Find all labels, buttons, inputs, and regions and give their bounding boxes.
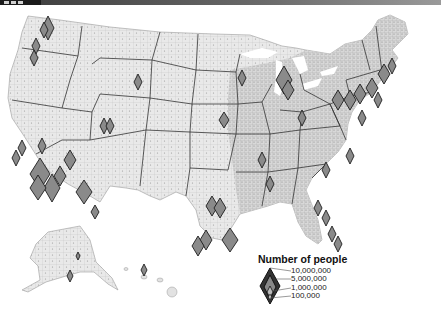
legend: Number of people 10,000,000 5,000,000 1,… — [258, 253, 378, 308]
legend-diamond-icon — [258, 267, 292, 309]
legend-title: Number of people — [258, 253, 347, 265]
hawaii — [124, 268, 177, 298]
header-tab — [0, 0, 41, 5]
legend-label-100k: 100,000 — [291, 292, 320, 300]
header-bar — [0, 0, 441, 5]
legend-label-5m: 5,000,000 — [291, 275, 327, 283]
